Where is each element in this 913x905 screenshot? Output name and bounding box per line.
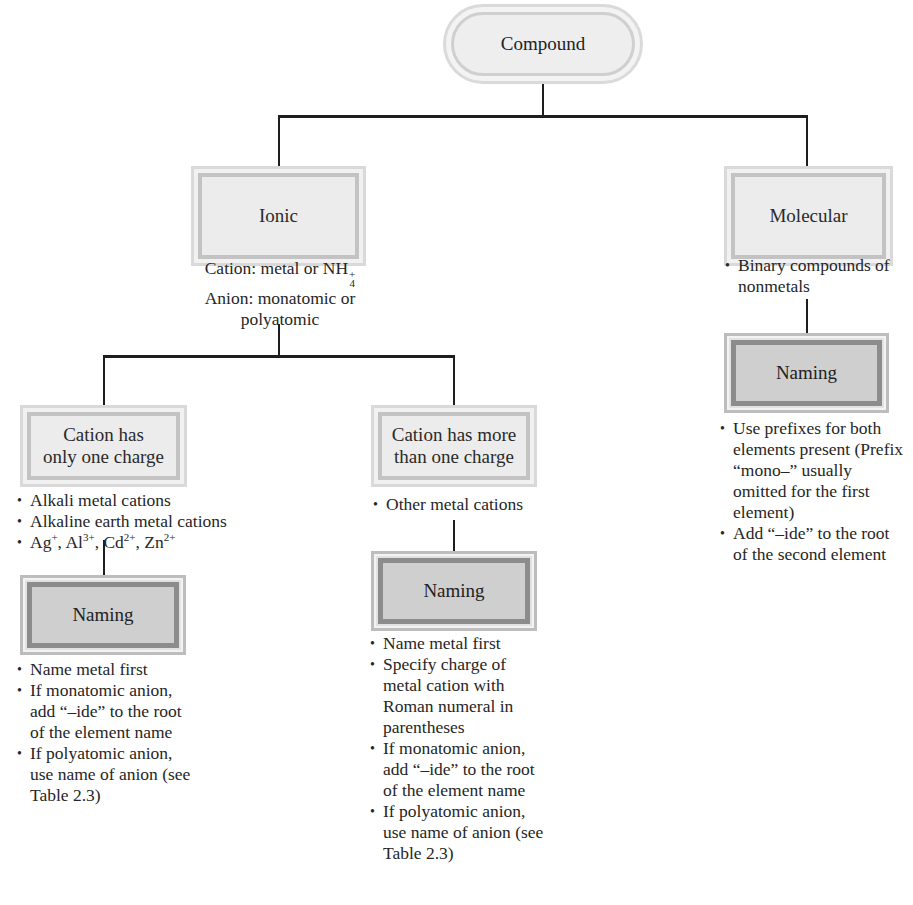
more-charge-bullet: Other metal cations bbox=[373, 494, 563, 515]
one-charge-naming-bullets: Name metal first If monatomic anion, add… bbox=[17, 659, 192, 806]
more-charge-naming-bullet: If monatomic anion, add “–ide” to the ro… bbox=[370, 738, 548, 801]
connector-to-ionic bbox=[278, 115, 280, 167]
one-charge-naming-node: Naming bbox=[20, 575, 186, 655]
more-charge-naming-bullets: Name metal first Specify charge of metal… bbox=[370, 633, 548, 864]
molecular-label: Molecular bbox=[731, 173, 886, 259]
ionic-anion-line1: Anion: monatomic or bbox=[170, 288, 390, 309]
more-charge-label: Cation has more than one charge bbox=[378, 412, 530, 480]
molecular-naming-bullets: Use prefixes for both elements present (… bbox=[720, 418, 905, 565]
compound-label: Compound bbox=[451, 12, 635, 76]
molecular-naming-node: Naming bbox=[724, 333, 889, 413]
connector-to-molecular bbox=[806, 115, 808, 167]
one-charge-bullet: Alkali metal cations bbox=[17, 490, 277, 511]
molecular-naming-label: Naming bbox=[731, 340, 882, 406]
ionic-anion-line2: polyatomic bbox=[170, 309, 390, 330]
molecular-naming-bullet: Add “–ide” to the root of the second ele… bbox=[720, 523, 905, 565]
one-charge-label: Cation has only one charge bbox=[27, 412, 180, 480]
molecular-bullet: Binary compounds of nonmetals bbox=[725, 255, 905, 297]
more-charge-naming-node: Naming bbox=[371, 551, 537, 631]
more-charge-naming-label: Naming bbox=[378, 558, 530, 624]
one-charge-naming-bullet: If monatomic anion, add “–ide” to the ro… bbox=[17, 680, 192, 743]
connector-root-horizontal bbox=[278, 115, 808, 118]
connector-root-down bbox=[542, 82, 544, 116]
one-charge-bullets: Alkali metal cations Alkaline earth meta… bbox=[17, 490, 277, 553]
connector-more-charge-naming bbox=[453, 520, 455, 554]
more-charge-node: Cation has more than one charge bbox=[371, 405, 537, 487]
ionic-description: Cation: metal or NH+4 Anion: monatomic o… bbox=[170, 258, 390, 330]
more-charge-bullets: Other metal cations bbox=[373, 494, 563, 515]
one-charge-naming-bullet: Name metal first bbox=[17, 659, 192, 680]
ionic-label: Ionic bbox=[198, 173, 359, 259]
molecular-node: Molecular bbox=[724, 166, 893, 266]
connector-molecular-naming bbox=[806, 299, 808, 335]
one-charge-ions: Ag+, Al3+, Cd2+, Zn2+ bbox=[17, 532, 277, 553]
ionic-node: Ionic bbox=[191, 166, 366, 266]
one-charge-bullet: Alkaline earth metal cations bbox=[17, 511, 277, 532]
one-charge-naming-label: Naming bbox=[27, 582, 179, 648]
molecular-naming-bullet: Use prefixes for both elements present (… bbox=[720, 418, 905, 523]
more-charge-naming-bullet: If polyatomic anion, use name of anion (… bbox=[370, 801, 548, 864]
connector-to-one-charge bbox=[103, 355, 105, 407]
connector-ionic-horizontal bbox=[103, 355, 455, 358]
one-charge-naming-bullet: If polyatomic anion, use name of anion (… bbox=[17, 743, 192, 806]
more-charge-naming-bullet: Specify charge of metal cation with Roma… bbox=[370, 654, 548, 738]
ionic-cation-line: Cation: metal or NH+4 bbox=[170, 258, 390, 288]
one-charge-node: Cation has only one charge bbox=[20, 405, 187, 487]
more-charge-naming-bullet: Name metal first bbox=[370, 633, 548, 654]
connector-to-more-charge bbox=[453, 355, 455, 407]
compound-node: Compound bbox=[443, 4, 643, 84]
molecular-bullets: Binary compounds of nonmetals bbox=[725, 255, 905, 297]
